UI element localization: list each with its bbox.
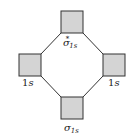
- antibonding-label: σ*1s: [63, 36, 77, 50]
- line-bottom-right: [83, 76, 103, 97]
- line-top-left: [41, 33, 61, 54]
- bonding-orbital-box: [61, 97, 83, 119]
- mo-diagram: [0, 0, 137, 139]
- right-atomic-orbital-box: [103, 54, 125, 76]
- left-atomic-orbital-box: [19, 54, 41, 76]
- bonding-label: σ1s: [64, 123, 79, 135]
- left-1s-label: 1s: [22, 78, 34, 88]
- antibonding-orbital-box: [61, 11, 83, 33]
- line-bottom-left: [41, 76, 61, 97]
- line-top-right: [83, 33, 103, 54]
- right-1s-label: 1s: [108, 78, 120, 88]
